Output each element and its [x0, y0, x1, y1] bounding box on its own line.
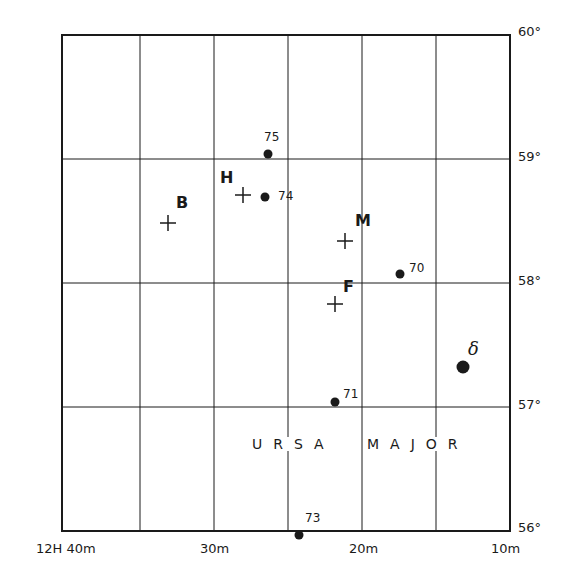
star-75-dot: [264, 150, 273, 159]
cross-B-icon: [160, 215, 176, 231]
star-label-70: 70: [409, 262, 424, 274]
cross-H-icon: [235, 187, 251, 203]
object-crosses: [160, 187, 353, 312]
star-label-73: 73: [305, 512, 320, 524]
star-label-delta: δ: [468, 340, 479, 358]
dec-label-56: 56°: [518, 521, 541, 534]
object-label-F: F: [343, 279, 354, 295]
star-label-75: 75: [264, 131, 279, 143]
ra-label-10m: 10m: [491, 542, 520, 555]
star-label-74: 74: [278, 190, 293, 202]
dec-label-60: 60°: [518, 25, 541, 38]
dec-label-57: 57°: [518, 398, 541, 411]
star-71-dot: [331, 398, 340, 407]
cross-F-icon: [327, 296, 343, 312]
ra-label-30m: 30m: [200, 542, 229, 555]
star-70-dot: [396, 270, 405, 279]
cross-M-icon: [337, 233, 353, 249]
object-label-H: H: [220, 170, 233, 186]
object-label-M: M: [355, 213, 371, 229]
star-delta-dot: [457, 361, 470, 374]
ra-label-12h40m: 12H 40m: [36, 542, 96, 555]
star-label-71: 71: [343, 388, 358, 400]
constellation-name-major: MAJOR: [365, 437, 471, 451]
dec-label-59: 59°: [518, 150, 541, 163]
star-chart: [0, 0, 582, 585]
constellation-name-ursa: URSA: [250, 437, 337, 451]
star-74-dot: [261, 193, 270, 202]
object-label-B: B: [176, 195, 188, 211]
ra-label-20m: 20m: [349, 542, 378, 555]
dec-label-58: 58°: [518, 274, 541, 287]
star-73-dot: [295, 531, 304, 540]
